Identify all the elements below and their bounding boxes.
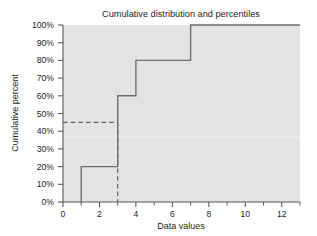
x-tick-label-6: 6 — [170, 209, 175, 219]
y-tick-label-50: 50% — [37, 109, 55, 119]
x-axis-tick-labels: 0 2 4 6 8 10 12 — [61, 209, 287, 219]
y-tick-label-60: 60% — [37, 91, 55, 101]
y-tick-label-70: 70% — [37, 73, 55, 83]
y-tick-label-30: 30% — [37, 144, 55, 154]
y-tick-label-100: 100% — [32, 20, 54, 30]
chart-title: Cumulative distribution and percentiles — [102, 9, 260, 19]
y-axis-ticks — [58, 25, 63, 202]
y-tick-label-90: 90% — [37, 38, 55, 48]
x-tick-label-8: 8 — [206, 209, 211, 219]
chart-figure: Cumulative distribution and percentiles … — [0, 0, 317, 236]
y-tick-label-10: 10% — [37, 179, 55, 189]
y-tick-label-80: 80% — [37, 55, 55, 65]
x-tick-label-2: 2 — [97, 209, 102, 219]
y-axis-label: Cumulative percent — [10, 74, 20, 152]
x-tick-label-12: 12 — [277, 209, 287, 219]
y-tick-label-20: 20% — [37, 162, 55, 172]
x-axis-label: Data values — [157, 221, 205, 231]
plot-area-background — [63, 25, 300, 202]
x-tick-label-10: 10 — [241, 209, 251, 219]
y-axis-tick-labels: 0% 10% 20% 30% 40% 50% 60% 70% 80% 90% 1… — [32, 20, 54, 207]
x-axis-ticks — [63, 202, 282, 207]
x-tick-label-4: 4 — [134, 209, 139, 219]
y-tick-label-0: 0% — [42, 197, 55, 207]
x-tick-label-0: 0 — [61, 209, 66, 219]
y-tick-label-40: 40% — [37, 126, 55, 136]
chart-svg: Cumulative distribution and percentiles … — [0, 0, 317, 236]
